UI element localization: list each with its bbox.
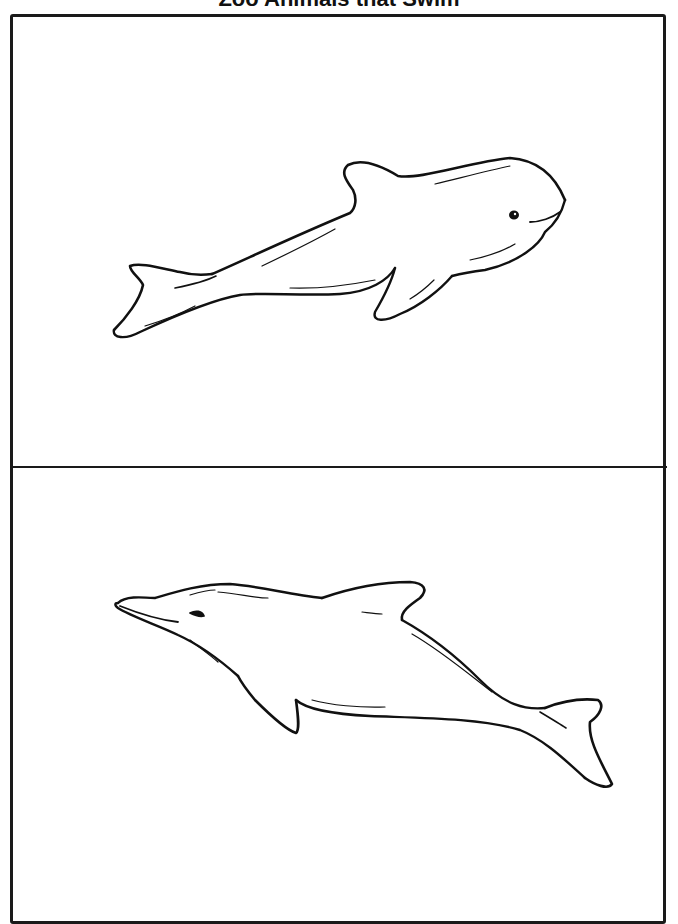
dolphin-drawing xyxy=(115,582,612,787)
